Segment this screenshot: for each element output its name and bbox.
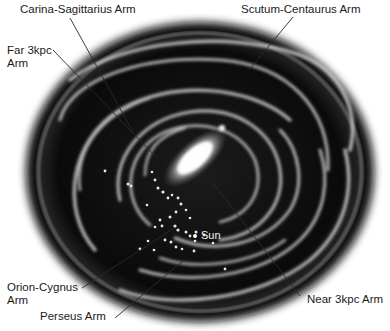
label-carina-sagittarius-arm: Carina-Sagittarius Arm — [20, 3, 136, 16]
sun-marker — [193, 234, 197, 238]
label-near-3kpc-arm: Near 3kpc Arm — [307, 293, 383, 306]
label-perseus-arm: Perseus Arm — [40, 310, 106, 323]
label-orion-cygnus-line2: Arm — [7, 294, 78, 307]
label-sun: Sun — [201, 229, 221, 242]
label-far-3kpc-line2: Arm — [7, 57, 52, 70]
label-orion-cygnus-arm: Orion-Cygnus Arm — [7, 281, 78, 307]
label-far-3kpc-arm: Far 3kpc Arm — [7, 44, 52, 70]
label-orion-cygnus-line1: Orion-Cygnus — [7, 281, 78, 294]
milky-way-diagram: Carina-Sagittarius Arm Scutum-Centaurus … — [0, 0, 390, 331]
label-far-3kpc-line1: Far 3kpc — [7, 44, 52, 57]
label-scutum-centaurus-arm: Scutum-Centaurus Arm — [241, 3, 361, 16]
